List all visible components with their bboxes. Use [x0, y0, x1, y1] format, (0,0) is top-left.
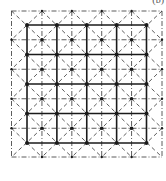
- grid-structure-diagram: [0, 0, 166, 181]
